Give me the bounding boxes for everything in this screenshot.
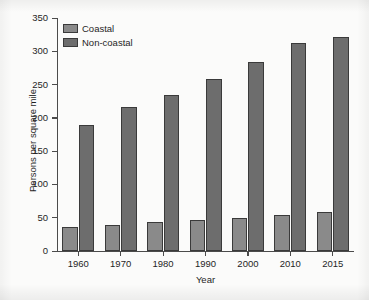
bar-non-coastal-1960	[79, 125, 95, 251]
bar-non-coastal-2000	[248, 62, 264, 251]
x-tick-mark	[120, 251, 121, 256]
bar-non-coastal-2015	[333, 37, 349, 251]
y-tick-label: 350	[32, 13, 48, 23]
x-tick-mark	[78, 251, 79, 256]
bar-coastal-1990	[190, 220, 206, 251]
bar-group	[147, 18, 179, 251]
legend-swatch-non-coastal-icon	[63, 38, 78, 47]
bar-group	[105, 18, 137, 251]
bar-coastal-2010	[274, 215, 290, 251]
y-axis-title: Persons per square mile	[27, 61, 38, 221]
legend-label-non-coastal: Non-coastal	[82, 37, 133, 48]
chart-legend: Coastal Non-coastal	[63, 22, 133, 50]
y-tick-label: 0	[43, 246, 48, 256]
bar-coastal-2000	[232, 218, 248, 251]
x-tick-label: 1990	[186, 258, 226, 269]
bar-coastal-2015	[317, 212, 333, 251]
x-tick-mark	[205, 251, 206, 256]
legend-item-non-coastal: Non-coastal	[63, 36, 133, 48]
x-tick-mark	[247, 251, 248, 256]
x-tick-label: 2000	[228, 258, 268, 269]
x-tick-mark	[332, 251, 333, 256]
x-tick-label: 1960	[58, 258, 98, 269]
x-tick-mark	[290, 251, 291, 256]
bar-group	[190, 18, 222, 251]
bar-coastal-1960	[62, 227, 78, 251]
bars-layer	[57, 18, 354, 251]
bar-non-coastal-2010	[291, 43, 307, 251]
bar-chart-figure: 050100150200250300350 Persons per square…	[0, 0, 369, 300]
x-tick-label: 2010	[270, 258, 310, 269]
x-tick-label: 1970	[101, 258, 141, 269]
bar-non-coastal-1990	[206, 79, 222, 251]
bar-coastal-1980	[147, 222, 163, 251]
legend-label-coastal: Coastal	[82, 23, 114, 34]
bar-group	[274, 18, 306, 251]
bar-group	[62, 18, 94, 251]
bar-non-coastal-1980	[164, 95, 180, 251]
y-tick-label: 50	[37, 213, 48, 223]
y-tick-label: 300	[32, 46, 48, 56]
x-tick-label: 2015	[313, 258, 353, 269]
legend-swatch-coastal-icon	[63, 24, 78, 33]
bar-non-coastal-1970	[121, 107, 137, 251]
bar-group	[232, 18, 264, 251]
legend-item-coastal: Coastal	[63, 22, 133, 34]
x-tick-label: 1980	[143, 258, 183, 269]
bar-group	[317, 18, 349, 251]
x-tick-mark	[163, 251, 164, 256]
bar-coastal-1970	[105, 225, 121, 251]
x-axis-title: Year	[57, 274, 354, 285]
